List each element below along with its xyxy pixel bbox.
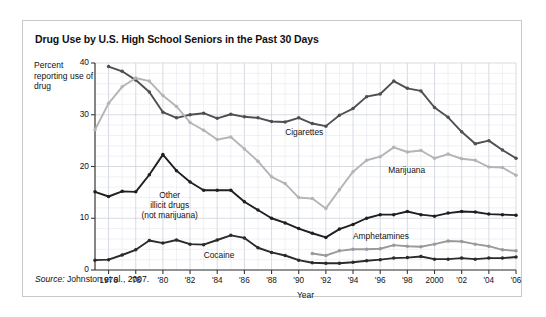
gridlines: [95, 63, 516, 270]
x-axis-title: Year: [95, 290, 516, 300]
series-label-amphetamines: Amphetamines: [353, 231, 409, 241]
source-label: Source:: [35, 274, 65, 284]
y-tick-label-0: 0: [61, 264, 89, 274]
source-text: Johnston et al., 2007.: [65, 274, 150, 284]
y-tick-label-30: 30: [61, 109, 89, 119]
series-label-marijuana: Marijuana: [388, 165, 425, 175]
series-label-cocaine: Cocaine: [204, 250, 235, 260]
series-label-other-illicit-line-1: Other: [132, 190, 208, 200]
figure-card: Drug Use by U.S. High School Seniors in …: [22, 20, 522, 297]
source-note: Source: Johnston et al., 2007.: [35, 274, 149, 284]
plot-area: 0102030401976'78'80'82'84'86'88'90'92'94…: [23, 21, 523, 298]
series-label-other-illicit-line-3: (not marijuana): [132, 210, 208, 220]
series-label-other-illicit-drugs: Otherillicit drugs(not marijuana): [132, 190, 208, 220]
line-chart: [23, 21, 523, 298]
x-tick-label-06: '06: [500, 276, 532, 285]
y-tick-label-10: 10: [61, 212, 89, 222]
series-label-cigarettes: Cigarettes: [285, 127, 323, 137]
series-label-other-illicit-line-2: illicit drugs: [132, 200, 208, 210]
y-tick-label-20: 20: [61, 161, 89, 171]
y-tick-label-40: 40: [61, 57, 89, 67]
